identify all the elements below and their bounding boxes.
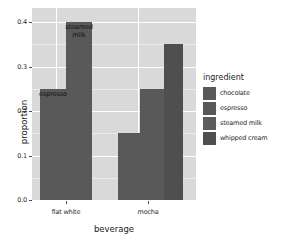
- legend-item-label: espresso: [220, 104, 247, 112]
- legend-key-swatch: [203, 117, 216, 130]
- legend: ingredient chocolateespressosteamed milk…: [203, 73, 283, 146]
- y-axis-title: proportion: [19, 99, 29, 143]
- x-tick-label: mocha: [118, 208, 178, 216]
- legend-title: ingredient: [203, 73, 283, 82]
- legend-key-swatch: [203, 102, 216, 115]
- legend-item[interactable]: espresso: [203, 101, 283, 115]
- x-tick-label: flat white: [36, 208, 96, 216]
- y-tick-mark: [29, 67, 32, 68]
- bar: [66, 22, 92, 200]
- bar-label-line: espresso: [36, 91, 70, 99]
- y-tick-mark: [29, 200, 32, 201]
- bar-label-line: milk: [62, 32, 96, 40]
- bar: [40, 89, 66, 200]
- y-tick-mark: [29, 111, 32, 112]
- y-tick-mark: [29, 22, 32, 23]
- legend-key-swatch: [203, 132, 216, 145]
- legend-item[interactable]: whipped cream: [203, 131, 283, 145]
- x-tick-mark: [66, 201, 67, 204]
- y-tick-label: 0.4: [17, 18, 27, 26]
- x-axis-title: beverage: [32, 224, 196, 234]
- legend-item-label: chocolate: [220, 89, 250, 97]
- bar-value-label: steamedmilk: [62, 24, 96, 39]
- chart-container: espressosteamedmilk 0.00.10.20.30.4 flat…: [0, 0, 284, 243]
- bar: [164, 44, 183, 200]
- legend-item[interactable]: steamed milk: [203, 116, 283, 130]
- y-tick-label: 0.1: [17, 152, 27, 160]
- legend-item[interactable]: chocolate: [203, 86, 283, 100]
- legend-key-swatch: [203, 87, 216, 100]
- legend-item-label: steamed milk: [220, 119, 262, 127]
- bar: [140, 89, 164, 200]
- bar-value-label: espresso: [36, 91, 70, 99]
- x-tick-mark: [148, 201, 149, 204]
- bar: [118, 133, 140, 200]
- plot-panel: espressosteamedmilk: [32, 8, 196, 201]
- legend-item-label: whipped cream: [220, 134, 268, 142]
- y-tick-label: 0.0: [17, 196, 27, 204]
- legend-items: chocolateespressosteamed milkwhipped cre…: [203, 86, 283, 145]
- y-tick-mark: [29, 156, 32, 157]
- y-tick-label: 0.3: [17, 63, 27, 71]
